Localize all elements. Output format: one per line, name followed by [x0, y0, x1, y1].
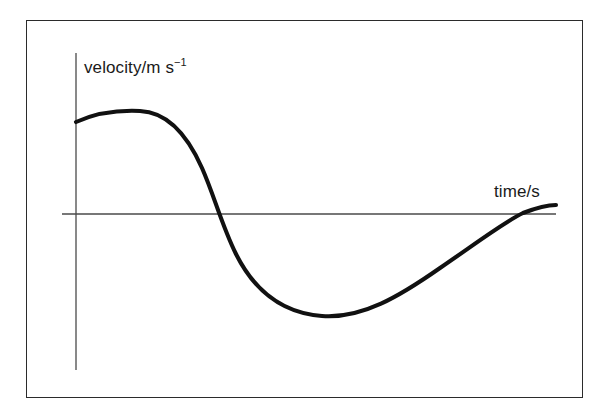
y-axis-label-text: velocity/m s	[84, 58, 174, 77]
velocity-time-graph-figure: velocity/m s−1 time/s	[0, 0, 601, 414]
y-axis-label-exponent: −1	[174, 56, 187, 68]
x-axis-label: time/s	[494, 182, 540, 202]
y-axis-label: velocity/m s−1	[84, 58, 187, 78]
